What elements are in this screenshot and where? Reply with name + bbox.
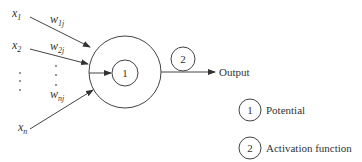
input-xn: xn wnj: [17, 87, 93, 136]
svg-text:wnj: wnj: [50, 87, 65, 103]
legend-item-potential: 1 Potential: [239, 99, 305, 121]
weight-w1j-label: w: [50, 12, 58, 26]
weight-wnj-label: w: [50, 87, 58, 101]
input-x2: x2 w2j: [11, 38, 88, 64]
svg-text:w1j: w1j: [50, 12, 65, 28]
neuron-diagram: x1 w1j x2 w2j xn wnj 1 2 Output 1 Potent…: [0, 0, 362, 162]
svg-text:x1: x1: [11, 6, 21, 22]
svg-text:x2: x2: [11, 38, 21, 54]
potential-marker-label: 1: [122, 67, 128, 79]
svg-text:xn: xn: [17, 120, 27, 136]
legend-item-activation: 2 Activation function: [239, 137, 352, 159]
activation-marker-label: 2: [180, 53, 186, 65]
legend-text-potential: Potential: [266, 104, 305, 116]
svg-text:w2j: w2j: [50, 39, 65, 55]
svg-text:1: 1: [247, 104, 253, 116]
legend-text-activation: Activation function: [266, 142, 352, 154]
svg-text:2: 2: [247, 142, 253, 154]
output-label: Output: [219, 66, 250, 78]
weight-w2j-label: w: [50, 39, 58, 53]
legend: 1 Potential 2 Activation function: [239, 99, 352, 159]
